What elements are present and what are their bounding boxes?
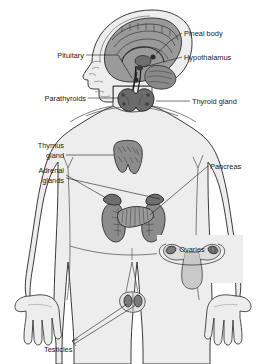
- right-hand: [205, 295, 251, 345]
- pineal-body-marker: [150, 54, 155, 59]
- parathyroid-marker-upper-right: [146, 93, 150, 97]
- label-parathyroids: Parathyroids: [45, 94, 87, 103]
- label-adrenal-glands-line1: Adrenal: [39, 166, 65, 175]
- label-adrenal-glands-line2: glands: [42, 176, 64, 185]
- left-hand: [15, 295, 61, 345]
- pituitary-marker: [133, 77, 138, 82]
- label-thymus-gland-line1: Thymus: [38, 141, 65, 150]
- label-thyroid-gland: Thyroid gland: [192, 97, 237, 106]
- parathyroid-marker-lower-left: [122, 102, 126, 106]
- testicles-shape: [120, 292, 146, 312]
- label-pineal-body: Pineal body: [184, 29, 223, 38]
- parathyroid-marker-lower-right: [145, 102, 149, 106]
- label-testicles: Testicles: [44, 345, 73, 354]
- label-hypothalamus: Hypothalamus: [184, 53, 232, 62]
- label-pituitary: Pituitary: [57, 51, 84, 60]
- hypothalamus-marker: [137, 66, 143, 71]
- label-pancreas: Pancreas: [210, 162, 242, 171]
- ovaries-inset: [157, 235, 243, 289]
- endocrine-system-figure: Pineal body Hypothalamus Pituitary Parat…: [0, 0, 265, 364]
- label-thymus-gland-line2: gland: [46, 151, 64, 160]
- label-ovaries: Ovaries: [179, 245, 205, 254]
- parathyroid-marker-upper-left: [121, 93, 125, 97]
